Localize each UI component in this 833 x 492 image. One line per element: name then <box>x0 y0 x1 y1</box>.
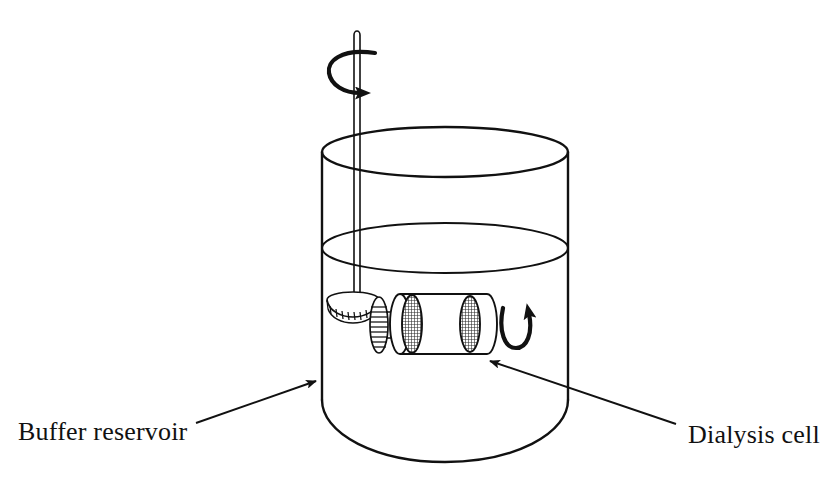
membrane-left <box>402 295 422 353</box>
label-buffer-reservoir: Buffer reservoir <box>18 417 188 446</box>
membrane-right <box>460 296 480 352</box>
cell-drive-gear-face <box>370 297 388 353</box>
figure-root: Buffer reservoir Dialysis cell <box>0 0 833 492</box>
dialysis-apparatus-diagram: Buffer reservoir Dialysis cell <box>0 0 833 492</box>
label-dialysis-cell: Dialysis cell <box>688 420 820 449</box>
